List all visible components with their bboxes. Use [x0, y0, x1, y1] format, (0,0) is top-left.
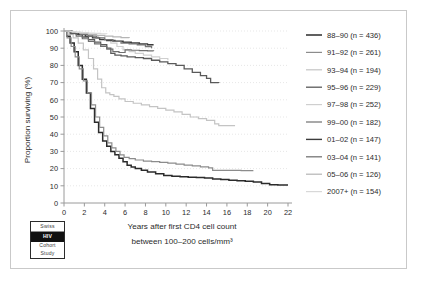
x-tick-label: 22 — [284, 208, 292, 217]
y-tick-label: 30 — [50, 147, 58, 156]
legend-label: 93–94 (n = 194) — [327, 66, 381, 75]
logo-line-cohort: Cohort — [31, 242, 64, 250]
x-tick-label: 2 — [82, 208, 86, 217]
x-tick-labels: 0246810121416182022 — [62, 208, 292, 217]
series-line-91-92 — [64, 31, 253, 171]
y-tick-label: 40 — [50, 130, 58, 139]
y-tick-labels: 0102030405060708090100 — [46, 27, 58, 208]
y-tick-label: 60 — [50, 96, 58, 105]
legend-label: 99–00 (n = 182) — [327, 118, 381, 127]
x-axis-title-line2: between 100–200 cells/mm³ — [131, 237, 233, 246]
legend: 88–90 (n = 436)91–92 (n = 261)93–94 (n =… — [306, 31, 382, 197]
series-line-03-04 — [64, 31, 152, 48]
y-tick-label: 0 — [54, 199, 58, 208]
legend-label: 2007+ (n = 154) — [327, 187, 382, 196]
series-line-88-90 — [64, 31, 288, 185]
logo-line-hiv: HIV — [31, 232, 64, 242]
figure-container: 0246810121416182022 01020304050607080901… — [0, 0, 421, 284]
logo-line-study: Study — [31, 250, 64, 258]
x-tick-label: 8 — [143, 208, 147, 217]
logo-line-swiss: Swiss — [31, 222, 64, 232]
series-line-97-98 — [64, 31, 168, 60]
x-tick-label: 16 — [223, 208, 231, 217]
legend-label: 03–04 (n = 141) — [327, 153, 381, 162]
x-axis-title-line1: Years after first CD4 cell count — [127, 222, 237, 231]
y-tick-label: 70 — [50, 78, 58, 87]
y-tick-label: 80 — [50, 61, 58, 70]
legend-label: 95–96 (n = 229) — [327, 83, 381, 92]
legend-label: 05–06 (n = 126) — [327, 170, 381, 179]
x-tick-label: 18 — [243, 208, 251, 217]
x-tick-label: 12 — [182, 208, 190, 217]
swiss-hiv-cohort-study-logo: Swiss HIV Cohort Study — [30, 221, 65, 259]
y-axis-title: Proportion surviving (%) — [23, 77, 32, 164]
x-tick-label: 14 — [202, 208, 210, 217]
y-tick-label: 90 — [50, 44, 58, 53]
y-tick-label: 20 — [50, 164, 58, 173]
legend-label: 88–90 (n = 436) — [327, 31, 381, 40]
x-tick-label: 4 — [103, 208, 107, 217]
legend-label: 01–02 (n = 147) — [327, 135, 381, 144]
y-tick-label: 50 — [50, 113, 58, 122]
x-tick-label: 6 — [123, 208, 127, 217]
legend-label: 97–98 (n = 252) — [327, 100, 381, 109]
x-tick-label: 20 — [264, 208, 272, 217]
series-lines — [64, 31, 288, 185]
y-tick-label: 10 — [50, 182, 58, 191]
x-tick-label: 10 — [162, 208, 170, 217]
y-tick-label: 100 — [46, 27, 58, 36]
x-tick-label: 0 — [62, 208, 66, 217]
legend-label: 91–92 (n = 261) — [327, 48, 381, 57]
